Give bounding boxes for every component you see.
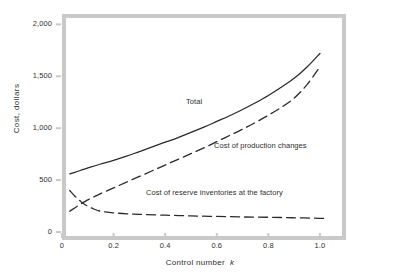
y-axis-title: Cost, dollars	[12, 69, 21, 149]
series-label-total: Total	[186, 97, 202, 106]
y-tick-label: 1,000	[0, 123, 52, 132]
x-axis-title-variable: k	[225, 258, 234, 267]
x-tick-label: 0.8	[250, 241, 286, 250]
figure: 05001,0001,5002,000 00.20.40.60.81.0 Cos…	[0, 0, 405, 276]
series-label-reserve-inventories: Cost of reserve inventories at the facto…	[146, 188, 283, 197]
x-tick-label: 0.6	[199, 241, 235, 250]
x-tick-label: 0.4	[147, 241, 183, 250]
y-tick-label: 1,500	[0, 71, 52, 80]
y-tick-label: 500	[0, 175, 52, 184]
x-axis-title-text: Control number	[166, 258, 225, 267]
x-tick-label: 0.2	[96, 241, 132, 250]
plot-canvas	[0, 0, 405, 276]
x-tick-label: 1.0	[302, 241, 338, 250]
axis-ticks	[56, 24, 320, 238]
y-tick-label: 2,000	[0, 19, 52, 28]
series-label-production-changes: Cost of production changes	[214, 141, 307, 150]
x-axis-title: Control numberk	[62, 258, 338, 267]
x-tick-label: 0	[44, 241, 80, 250]
y-tick-label: 0	[0, 227, 52, 236]
series-curve-0	[70, 53, 320, 173]
